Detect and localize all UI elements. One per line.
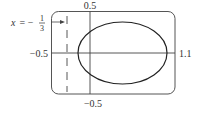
fraction-numerator: 1: [40, 14, 44, 23]
asymptote-equals: = −: [17, 17, 34, 28]
x-max-label: 1.1: [179, 48, 192, 59]
fraction-denominator: 3: [40, 24, 44, 33]
arrowhead-icon: [60, 20, 65, 24]
diagram: 0.5 −0.5 −0.5 1.1 x = − 1 3: [0, 0, 201, 116]
y-min-label: −0.5: [84, 98, 102, 109]
y-max-label: 0.5: [84, 0, 97, 11]
x-min-label: −0.5: [30, 48, 48, 59]
asymptote-var: x: [10, 17, 16, 28]
